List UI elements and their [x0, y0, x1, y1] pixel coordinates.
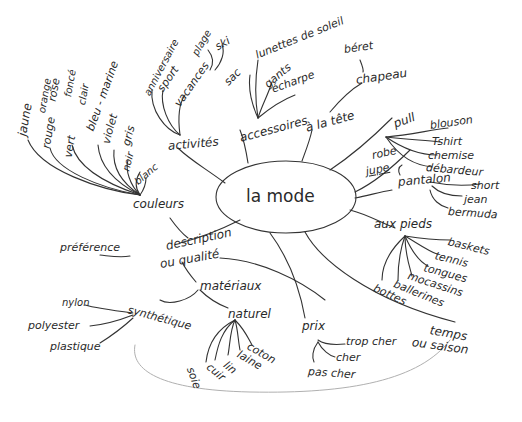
- leaf-polyester: polyester: [28, 320, 79, 331]
- branch-couleurs: couleurs: [133, 198, 184, 210]
- leaf-jean: jean: [464, 194, 488, 205]
- leaf-nylon: nylon: [62, 298, 90, 308]
- branch-aux-pieds: aux pieds: [374, 218, 432, 230]
- leaf-short: short: [471, 180, 499, 191]
- leaf-preference: préférence: [60, 242, 120, 253]
- leaf-bermuda: bermuda: [448, 206, 498, 220]
- leaf-plastique: plastique: [50, 341, 101, 352]
- leaf-cher: cher: [336, 352, 360, 363]
- leaf-vert: vert: [63, 135, 78, 159]
- leaf-pas-cher: pas cher: [308, 366, 356, 380]
- branch-prix: prix: [302, 320, 325, 332]
- branch-materiaux: matériaux: [200, 280, 261, 292]
- sub-naturel: naturel: [228, 308, 271, 320]
- leaf-chemise: chemise: [428, 150, 474, 161]
- leaf-trop-cher: trop cher: [346, 336, 396, 347]
- center-topic: la mode: [246, 188, 315, 205]
- leaf-tshirt: Tshirt: [432, 136, 462, 147]
